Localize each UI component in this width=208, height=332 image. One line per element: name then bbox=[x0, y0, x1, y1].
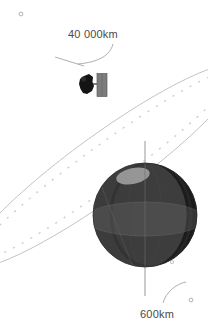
perigee-marker bbox=[189, 298, 193, 302]
apogee-altitude-label: 40 000km bbox=[68, 29, 118, 40]
perigee-leader-line bbox=[163, 282, 186, 303]
apogee-marker bbox=[19, 12, 23, 16]
orbit-diagram: 40 000km 600km bbox=[0, 0, 208, 332]
apogee-leader-line bbox=[78, 44, 113, 64]
satellite-body bbox=[79, 74, 94, 94]
perigee-altitude-label: 600km bbox=[140, 309, 174, 320]
satellite bbox=[79, 74, 107, 97]
apogee-leader-tick bbox=[55, 57, 84, 66]
satellite-antenna-icon bbox=[81, 76, 86, 81]
orbit-node-marker bbox=[170, 260, 173, 263]
planet-sphere bbox=[85, 163, 205, 267]
diagram-canvas bbox=[0, 0, 208, 332]
orbit-group bbox=[0, 12, 208, 302]
